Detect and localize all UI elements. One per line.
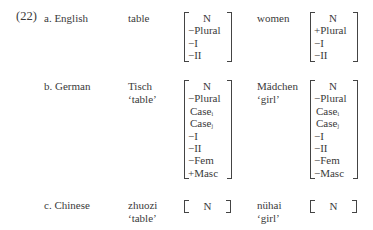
gloss-tisch: ‘table’ [128,93,157,106]
subscript: j [211,123,213,129]
feature-text: Case [316,117,337,129]
feature: −I [314,130,352,142]
word-nuhai: nühai [257,199,281,212]
feature-matrix-madchen: N −Plural Casei Casej −I −II −Fem −Masc [310,80,358,179]
feature: N [314,80,352,92]
row-label-english: a. English [44,12,88,25]
gloss-zhuozi: ‘table’ [128,212,157,225]
feature: −II [188,49,226,61]
feature-text: Case [190,105,211,117]
feature: −II [188,142,226,154]
feature-text: Case [316,105,337,117]
feature: −II [314,49,352,61]
gloss-nuhai: ‘girl’ [257,212,280,225]
feature-case-i: Casei [188,105,226,117]
subscript: i [211,111,213,117]
feature: +Plural [314,24,352,36]
feature-case-i: Casei [314,105,352,117]
row-label-chinese: c. Chinese [44,199,90,212]
feature: N [188,12,226,24]
feature-text: Case [190,117,211,129]
feature: −Masc [314,167,352,179]
feature: N [188,80,226,92]
subscript: i [337,111,339,117]
row-label-german: b. German [44,80,90,93]
feature: −Fem [314,154,352,166]
word-tisch: Tisch [128,80,152,93]
feature: N [310,200,357,213]
word-madchen: Mädchen [257,80,298,93]
feature-matrix-table-english: N −Plural −I −II [184,12,232,62]
word-women: women [257,12,289,25]
feature: N [314,12,352,24]
feature: −I [188,130,226,142]
example-number: (22) [16,10,37,23]
feature: −Plural [188,24,226,36]
feature: −I [188,37,226,49]
feature: −Plural [188,92,226,104]
feature: −Plural [314,92,352,104]
feature: −Fem [188,154,226,166]
feature-case-j: Casej [188,117,226,129]
word-zhuozi: zhuozi [128,199,157,212]
feature: N [184,200,231,213]
feature: −I [314,37,352,49]
word-table-english: table [128,12,149,25]
subscript: j [337,123,339,129]
feature: −II [314,142,352,154]
feature-matrix-nuhai: N [310,200,357,213]
feature-matrix-women: N +Plural −I −II [310,12,358,62]
feature-case-j: Casej [314,117,352,129]
feature-matrix-tisch: N −Plural Casei Casej −I −II −Fem +Masc [184,80,232,179]
gloss-madchen: ‘girl’ [257,93,280,106]
feature-matrix-zhuozi: N [184,200,231,213]
feature: +Masc [188,167,226,179]
